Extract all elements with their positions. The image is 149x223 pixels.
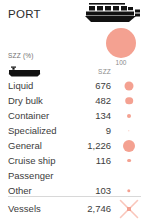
cross-marker-icon (119, 199, 139, 219)
row-label: Specialized (8, 125, 69, 136)
container-ship-icon (83, 1, 141, 25)
row-label: Passenger (8, 170, 69, 181)
total-separator (8, 196, 141, 197)
value-bubble (128, 130, 129, 131)
table-row[interactable]: Specialized 9 (8, 123, 141, 138)
value-bubble (123, 140, 135, 152)
table-row[interactable]: Passenger (8, 168, 141, 183)
total-value: 2,746 (69, 203, 117, 214)
row-label: Other (8, 185, 69, 196)
port-vessel-panel: PORT 100 (0, 0, 149, 223)
row-value: 676 (69, 80, 117, 91)
row-value: 103 (69, 185, 117, 196)
vessel-table: SZZ Liquid 676 Dry bulk 482 Container 13… (8, 64, 141, 198)
value-bubble (127, 114, 131, 118)
value-bubble (125, 97, 133, 105)
row-label: Cruise ship (8, 155, 69, 166)
column-header-category (8, 66, 69, 77)
row-bubble-cell (117, 168, 141, 183)
total-row[interactable]: Vessels 2,746 (8, 201, 141, 216)
row-label: Liquid (8, 80, 69, 91)
row-value: 9 (69, 125, 117, 136)
row-label: General (8, 140, 69, 151)
value-bubble (127, 159, 131, 163)
row-bubble-cell (117, 78, 141, 93)
total-bubble-cell (117, 201, 141, 216)
legend: 100 (97, 28, 145, 66)
unit-label: SZZ (%) (8, 52, 34, 59)
row-bubble-cell (117, 123, 141, 138)
vessel-icon (8, 66, 42, 77)
row-bubble-cell (117, 153, 141, 168)
row-label: Dry bulk (8, 95, 69, 106)
table-row[interactable]: Cruise ship 116 (8, 153, 141, 168)
row-value: 482 (69, 95, 117, 106)
table-row[interactable]: Container 134 (8, 108, 141, 123)
table-header-row: SZZ (8, 64, 141, 78)
row-bubble-cell (117, 138, 141, 153)
legend-bubble (106, 28, 136, 58)
row-bubble-cell (117, 93, 141, 108)
table-row[interactable]: General 1,226 (8, 138, 141, 153)
page-title: PORT (8, 8, 41, 20)
table-row[interactable]: Liquid 676 (8, 78, 141, 93)
row-value: 116 (69, 155, 117, 166)
row-value: 134 (69, 110, 117, 121)
value-bubble (125, 81, 134, 90)
value-bubble (127, 189, 130, 192)
row-label: Container (8, 110, 69, 121)
total-label: Vessels (8, 203, 69, 214)
column-header-szz: SZZ (69, 68, 117, 75)
panel-header: PORT (8, 0, 141, 28)
row-bubble-cell (117, 108, 141, 123)
row-value: 1,226 (69, 140, 117, 151)
table-row[interactable]: Dry bulk 482 (8, 93, 141, 108)
